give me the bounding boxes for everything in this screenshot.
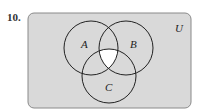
- set-b-label: B: [130, 38, 137, 50]
- set-c-label: C: [105, 81, 113, 93]
- set-a-label: A: [80, 38, 88, 50]
- universe-label: U: [175, 22, 184, 34]
- venn-diagram: A B C U: [0, 0, 198, 109]
